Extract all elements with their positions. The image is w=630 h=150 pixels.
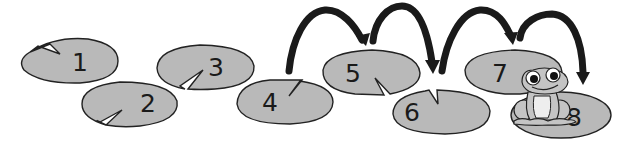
pad-label-2: 2 [140,89,156,118]
pad-label-4: 4 [262,88,278,117]
pad-label-6: 6 [404,98,420,127]
pad-label-1: 1 [72,48,88,77]
lily-pad-jump-diagram: 1 2 3 4 5 6 7 8 [0,0,630,150]
lily-pad-4: 4 [237,80,333,124]
lily-pad-5: 5 [323,50,420,95]
lily-pad-6: 6 [393,90,490,134]
lily-pad-2: 2 [82,82,177,127]
pad-label-5: 5 [345,59,361,88]
pad-label-7: 7 [492,59,508,88]
arrowhead-icon [576,72,590,85]
arrowhead-icon [504,32,518,45]
pad-label-3: 3 [208,53,224,82]
arrowhead-icon [425,60,440,74]
lily-pad-3: 3 [157,45,254,90]
lily-pad-1: 1 [22,39,118,84]
